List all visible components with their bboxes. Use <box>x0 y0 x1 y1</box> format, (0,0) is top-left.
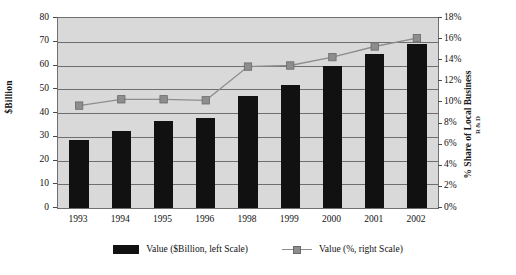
y-tick-left <box>53 88 57 89</box>
y-tick-right <box>438 186 442 187</box>
y-axis-right-title: % Share of Local Business R&D <box>463 56 484 194</box>
legend-label: Value ($Billion, left Scale) <box>146 244 248 254</box>
y-tick-left <box>53 65 57 66</box>
y-ticklabel-right: 18% <box>444 12 461 22</box>
y-ticklabel-right: 8% <box>444 117 457 127</box>
y-tick-right <box>438 38 442 39</box>
line-series <box>58 18 438 208</box>
y-tick-right <box>438 207 442 208</box>
y-tick-left <box>53 41 57 42</box>
y-ticklabel-right: 2% <box>444 180 457 190</box>
y-tick-left <box>53 183 57 184</box>
y-tick-left <box>53 160 57 161</box>
line-marker-2001 <box>371 43 378 50</box>
line-marker-1999 <box>287 62 294 69</box>
y-tick-right <box>438 80 442 81</box>
legend-label: Value (%, right Scale) <box>319 244 403 254</box>
y-tick-left <box>53 136 57 137</box>
line-marker-2002 <box>413 34 420 41</box>
y-ticklabel-left: 70 <box>40 35 50 45</box>
y-axis-left-title: $Billion <box>4 64 14 130</box>
y-tick-right <box>438 123 442 124</box>
x-ticklabel-1998: 1998 <box>226 214 268 224</box>
y-tick-right <box>438 165 442 166</box>
y-tick-right <box>438 17 442 18</box>
y-axis-right-title-line1: % Share of Local Business <box>463 70 473 178</box>
y-tick-right <box>438 101 442 102</box>
y-ticklabel-right: 0% <box>444 202 457 212</box>
x-ticklabel-1993: 1993 <box>57 214 99 224</box>
y-ticklabel-right: 6% <box>444 138 457 148</box>
y-ticklabel-right: 14% <box>444 54 461 64</box>
y-ticklabel-left: 60 <box>40 59 50 69</box>
x-ticklabel-1999: 1999 <box>268 214 310 224</box>
y-ticklabel-left: 0 <box>44 202 49 212</box>
y-tick-right <box>438 59 442 60</box>
y-tick-left <box>53 112 57 113</box>
line-marker-1995 <box>160 96 167 103</box>
y-ticklabel-right: 4% <box>444 159 457 169</box>
chart-figure: $Billion % Share of Local Business R&D 0… <box>0 0 516 275</box>
line-marker-1998 <box>244 63 251 70</box>
y-tick-left <box>53 17 57 18</box>
x-ticklabel-1994: 1994 <box>99 214 141 224</box>
y-ticklabel-left: 20 <box>40 154 50 164</box>
legend-entry-1[interactable]: Value (%, right Scale) <box>282 244 403 254</box>
y-tick-right <box>438 144 442 145</box>
chart-legend: Value ($Billion, left Scale)Value (%, ri… <box>0 244 516 254</box>
y-tick-left <box>53 207 57 208</box>
y-ticklabel-left: 80 <box>40 12 50 22</box>
line-marker-1996 <box>202 97 209 104</box>
line-marker-1994 <box>118 96 125 103</box>
y-ticklabel-left: 50 <box>40 83 50 93</box>
x-ticklabel-2001: 2001 <box>353 214 395 224</box>
y-ticklabel-right: 16% <box>444 33 461 43</box>
y-ticklabel-left: 40 <box>40 107 50 117</box>
y-ticklabel-left: 10 <box>40 178 50 188</box>
line-marker-1993 <box>75 102 82 109</box>
line-path <box>79 38 417 106</box>
x-ticklabel-1995: 1995 <box>141 214 183 224</box>
plot-area <box>57 17 439 209</box>
line-marker-2000 <box>329 53 336 60</box>
y-axis-right-title-line2: R&D <box>473 56 484 194</box>
y-ticklabel-right: 12% <box>444 75 461 85</box>
y-axis-right-title-wrap: % Share of Local Business R&D <box>430 16 516 231</box>
x-ticklabel-1996: 1996 <box>184 214 226 224</box>
x-ticklabel-2000: 2000 <box>310 214 352 224</box>
y-ticklabel-left: 30 <box>40 130 50 140</box>
x-ticklabel-2002: 2002 <box>395 214 437 224</box>
y-ticklabel-right: 10% <box>444 96 461 106</box>
legend-line-marker-icon <box>282 245 312 254</box>
legend-bar-swatch-icon <box>113 245 139 254</box>
legend-entry-0[interactable]: Value ($Billion, left Scale) <box>113 244 248 254</box>
